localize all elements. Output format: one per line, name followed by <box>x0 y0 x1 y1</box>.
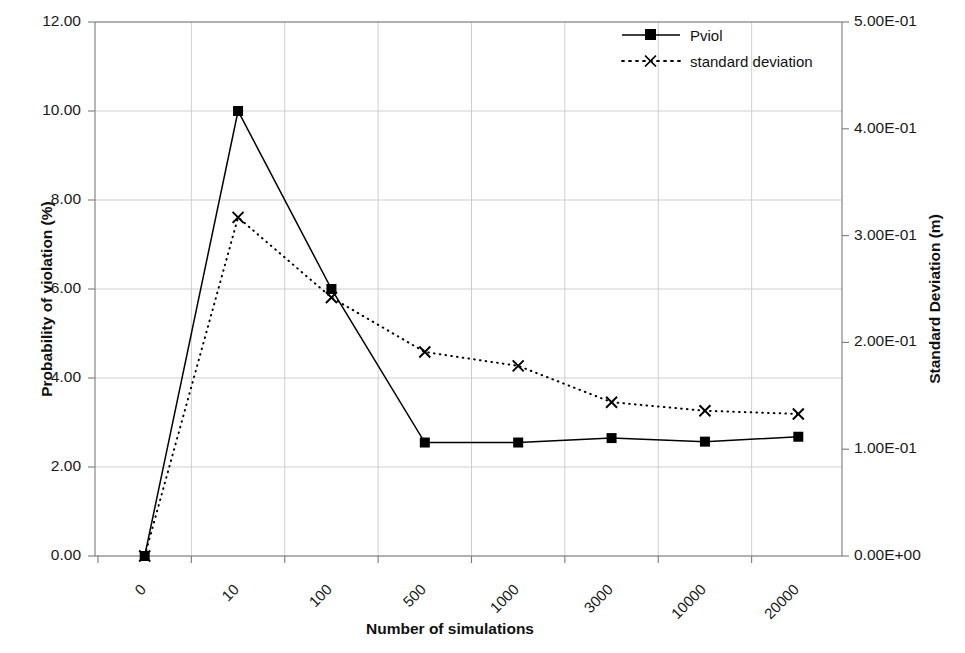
data-point-marker <box>233 212 244 223</box>
x-axis-title: Number of simulations <box>0 620 900 638</box>
y-axis-right-tick-label: 1.00E-01 <box>854 439 964 457</box>
y-axis-left-tick-label: 12.00 <box>1 12 81 30</box>
y-axis-right-tick-label: 5.00E-01 <box>854 12 964 30</box>
data-point-marker <box>233 106 243 116</box>
plot-canvas <box>0 0 965 653</box>
data-point-marker <box>420 438 430 448</box>
y-axis-right-tick-label: 0.00E+00 <box>854 546 964 564</box>
legend-swatch-dotted-x-icon <box>620 52 682 70</box>
y-axis-left-tick-label: 10.00 <box>1 101 81 119</box>
y-axis-left-tick-label: 0.00 <box>1 546 81 564</box>
y-axis-right-tick-label: 4.00E-01 <box>854 119 964 137</box>
y-axis-right-tick-label: 2.00E-01 <box>854 332 964 350</box>
chart-figure: 0.002.004.006.008.0010.0012.00 0.00E+001… <box>0 0 965 653</box>
chart-legend: Pviol standard deviation <box>620 22 813 74</box>
y-axis-right-tick-label: 3.00E-01 <box>854 226 964 244</box>
y-axis-right-title: Standard Deviation (m) <box>926 134 944 464</box>
data-point-marker <box>793 408 804 419</box>
legend-label-pviol: Pviol <box>690 27 723 44</box>
data-point-marker <box>793 432 803 442</box>
y-axis-left-title: Probability of violation (%) <box>38 134 56 464</box>
data-point-marker <box>607 433 617 443</box>
legend-item-standard-deviation: standard deviation <box>620 48 813 74</box>
data-point-marker <box>699 405 710 416</box>
data-point-marker <box>606 397 617 408</box>
data-point-marker <box>513 438 523 448</box>
axis-ticks <box>88 22 849 563</box>
legend-swatch-solid-square-icon <box>620 26 682 44</box>
gridlines <box>95 22 842 556</box>
legend-label-standard-deviation: standard deviation <box>690 53 813 70</box>
data-point-marker <box>326 284 336 294</box>
legend-item-pviol: Pviol <box>620 22 813 48</box>
data-point-marker <box>700 437 710 447</box>
